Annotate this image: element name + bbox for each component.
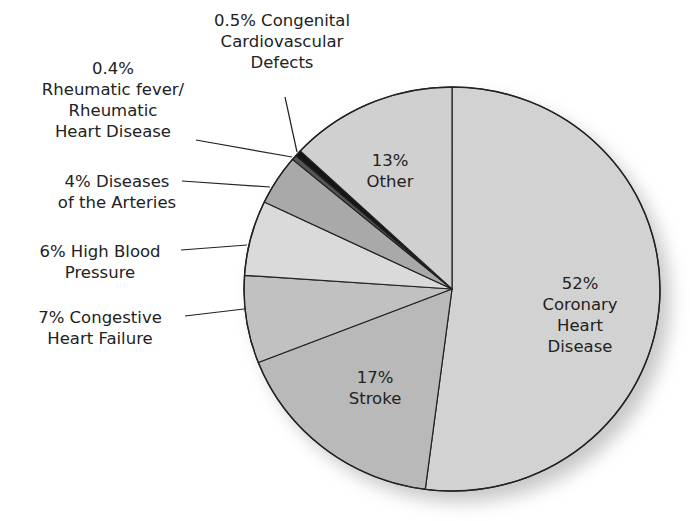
label-rheumatic-line2: Rheumatic [28,100,198,121]
label-stroke: 17% Stroke [330,367,420,409]
label-rheumatic-value: 0.4% [28,58,198,79]
label-coronary: 52% Coronary Heart Disease [525,273,635,357]
label-chf-line1: 7% Congestive [20,307,180,328]
label-coronary-value: 52% [525,273,635,294]
label-other-text: Other [350,171,430,192]
label-other: 13% Other [350,150,430,192]
label-rheumatic-line3: Heart Disease [28,121,198,142]
label-hbp: 6% High Blood Pressure [22,241,178,283]
label-congenital: 0.5% Congenital Cardiovascular Defects [192,10,372,73]
label-rheumatic: 0.4% Rheumatic fever/ Rheumatic Heart Di… [28,58,198,142]
label-coronary-line2: Heart [525,315,635,336]
label-other-value: 13% [350,150,430,171]
label-arteries-line1: 4% Diseases [42,171,192,192]
label-hbp-line2: Pressure [22,262,178,283]
leader-line-congenital [285,97,297,152]
leader-line-arteries [182,181,270,187]
label-coronary-line3: Disease [525,336,635,357]
leader-line-chf [185,309,244,316]
label-coronary-line1: Coronary [525,294,635,315]
label-stroke-value: 17% [330,367,420,388]
label-congenital-line2: Cardiovascular [192,31,372,52]
leader-line-rheumatic [196,140,292,157]
label-stroke-text: Stroke [330,388,420,409]
label-arteries: 4% Diseases of the Arteries [42,171,192,213]
label-arteries-line2: of the Arteries [42,192,192,213]
leader-line-hbp [181,245,247,250]
label-rheumatic-line1: Rheumatic fever/ [28,79,198,100]
label-congenital-line1: 0.5% Congenital [192,10,372,31]
label-chf-line2: Heart Failure [20,328,180,349]
label-hbp-line1: 6% High Blood [22,241,178,262]
label-congenital-line3: Defects [192,52,372,73]
label-chf: 7% Congestive Heart Failure [20,307,180,349]
